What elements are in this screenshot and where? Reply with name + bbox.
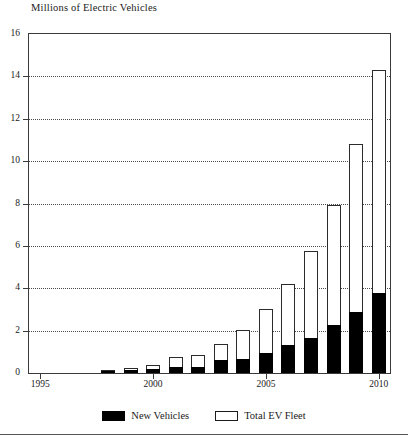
bar-group	[304, 34, 318, 373]
bar-group	[191, 34, 205, 373]
chart-title: Millions of Electric Vehicles	[31, 2, 157, 13]
bar-new-vehicles	[349, 312, 363, 373]
bar-group	[101, 34, 115, 373]
y-axis-tick-label: 10	[11, 156, 21, 166]
legend-swatch-total-ev-fleet	[215, 411, 238, 421]
bar-group	[124, 34, 138, 373]
bar-new-vehicles	[191, 367, 205, 373]
chart-legend: New VehiclesTotal EV Fleet	[0, 410, 408, 421]
y-axis-tick-label: 4	[15, 284, 20, 294]
y-axis-tick-label: 8	[15, 199, 20, 209]
y-axis-tick	[23, 204, 29, 205]
y-axis-tick-label: 2	[15, 326, 20, 336]
bar-new-vehicles	[101, 371, 115, 373]
bar-new-vehicles	[372, 293, 386, 374]
y-axis-tick	[23, 76, 29, 77]
y-axis-tick	[23, 331, 29, 332]
y-axis-tick-label: 6	[15, 241, 20, 251]
bar-group	[372, 34, 386, 373]
bar-new-vehicles	[124, 370, 138, 373]
legend-item: New Vehicles	[102, 410, 189, 421]
bar-new-vehicles	[281, 345, 295, 373]
legend-swatch-new-vehicles	[102, 411, 125, 421]
bar-new-vehicles	[259, 353, 273, 373]
bar-new-vehicles	[327, 325, 341, 373]
bar-group	[349, 34, 363, 373]
chart-figure: Millions of Electric Vehicles 0246810121…	[0, 0, 408, 443]
x-axis-tick-label: 2000	[144, 379, 163, 389]
y-axis-tick-label: 12	[11, 114, 21, 124]
bar-new-vehicles	[169, 367, 183, 373]
bar-group	[327, 34, 341, 373]
x-axis-tick-label: 2005	[256, 379, 275, 389]
legend-label: Total EV Fleet	[244, 410, 305, 421]
legend-label: New Vehicles	[131, 410, 189, 421]
bar-group	[281, 34, 295, 373]
legend-item: Total EV Fleet	[215, 410, 305, 421]
x-axis-tick-label: 2010	[369, 379, 388, 389]
y-axis-tick	[23, 288, 29, 289]
bar-new-vehicles	[146, 369, 160, 373]
bottom-divider	[0, 434, 408, 435]
bar-new-vehicles	[214, 360, 228, 373]
x-axis-tick-label: 1995	[31, 379, 50, 389]
y-axis-tick	[23, 119, 29, 120]
y-axis-tick	[23, 246, 29, 247]
y-axis-tick-label: 16	[11, 29, 21, 39]
bar-group	[259, 34, 273, 373]
bar-group	[169, 34, 183, 373]
y-axis-tick	[23, 161, 29, 162]
bar-group	[236, 34, 250, 373]
bar-new-vehicles	[304, 338, 318, 373]
y-axis-tick-label: 14	[11, 72, 21, 82]
plot-area: 0246810121416	[29, 34, 390, 373]
bar-group	[214, 34, 228, 373]
bar-group	[146, 34, 160, 373]
y-axis-tick-label: 0	[15, 368, 20, 378]
plot-frame: 0246810121416	[28, 33, 391, 374]
bar-new-vehicles	[236, 359, 250, 373]
